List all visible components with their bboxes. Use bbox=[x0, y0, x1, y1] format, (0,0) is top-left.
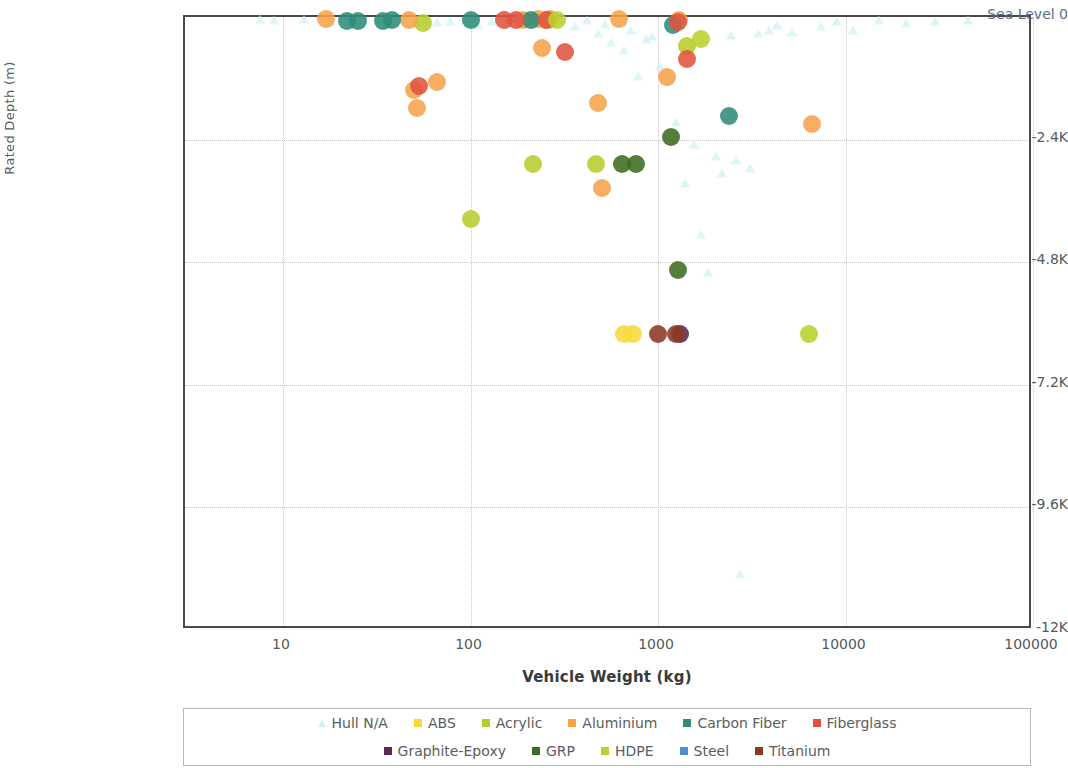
plot-area[interactable] bbox=[183, 15, 1031, 628]
data-point-aluminium bbox=[405, 81, 423, 99]
data-point-hull-n-a bbox=[255, 14, 265, 23]
data-point-hull-n-a bbox=[703, 268, 713, 277]
legend-item-steel[interactable]: Steel bbox=[680, 743, 730, 759]
legend-item-hdpe[interactable]: HDPE bbox=[601, 743, 654, 759]
legend-item-abs[interactable]: ABS bbox=[414, 715, 456, 731]
data-point-hull-n-a bbox=[735, 569, 745, 578]
legend-item-titanium[interactable]: Titanium bbox=[755, 743, 830, 759]
legend-label: Carbon Fiber bbox=[697, 715, 786, 731]
legend[interactable]: Hull N/AABSAcrylicAluminiumCarbon FiberF… bbox=[183, 708, 1031, 766]
data-point-hull-n-a bbox=[726, 30, 736, 39]
legend-label: GRP bbox=[546, 743, 575, 759]
data-point-hull-n-a bbox=[787, 28, 797, 37]
gridline-vertical bbox=[846, 17, 847, 626]
legend-label: Titanium bbox=[769, 743, 830, 759]
chart-root: Rated Depth (m) Sea Level 0-2.4K-4.8K-7.… bbox=[0, 0, 1068, 768]
data-point-hull-n-a bbox=[655, 61, 665, 70]
data-point-hull-n-a bbox=[412, 19, 422, 28]
data-point-aluminium bbox=[610, 10, 628, 28]
legend-row: Graphite-EpoxyGRPHDPESteelTitanium bbox=[184, 737, 1030, 765]
data-point-fiberglass bbox=[556, 43, 574, 61]
data-point-aluminium bbox=[514, 11, 532, 29]
legend-item-hull-n-a[interactable]: Hull N/A bbox=[318, 715, 388, 731]
data-point-fiberglass bbox=[538, 11, 556, 29]
data-point-carbon-fiber bbox=[374, 12, 392, 30]
x-tick-label: 1000 bbox=[638, 636, 674, 652]
data-point-hull-n-a bbox=[874, 16, 884, 25]
data-point-aluminium bbox=[803, 115, 821, 133]
data-point-hull-n-a bbox=[516, 16, 526, 25]
data-point-hull-n-a bbox=[633, 71, 643, 80]
data-point-hull-n-a bbox=[671, 117, 681, 126]
data-point-hull-n-a bbox=[717, 168, 727, 177]
legend-item-aluminium[interactable]: Aluminium bbox=[568, 715, 657, 731]
legend-item-fiberglass[interactable]: Fiberglass bbox=[813, 715, 897, 731]
data-point-hull-n-a bbox=[848, 25, 858, 34]
legend-item-graphite-epoxy[interactable]: Graphite-Epoxy bbox=[384, 743, 506, 759]
data-point-hull-n-a bbox=[764, 26, 774, 35]
x-tick-label: 100 bbox=[455, 636, 482, 652]
data-point-hull-n-a bbox=[680, 179, 690, 188]
data-point-hull-n-a bbox=[614, 17, 624, 26]
data-point-hull-n-a bbox=[570, 22, 580, 31]
legend-label: Hull N/A bbox=[332, 715, 388, 731]
legend-swatch-icon bbox=[482, 719, 490, 727]
data-point-hull-n-a bbox=[353, 15, 363, 24]
legend-swatch-icon bbox=[414, 719, 422, 727]
data-point-grp bbox=[669, 261, 687, 279]
data-point-carbon-fiber bbox=[720, 107, 738, 125]
data-point-hull-n-a bbox=[421, 15, 431, 24]
data-point-hull-n-a bbox=[540, 17, 550, 26]
legend-label: Acrylic bbox=[496, 715, 543, 731]
legend-swatch-icon bbox=[384, 747, 392, 755]
data-point-hdpe bbox=[692, 30, 710, 48]
data-point-hdpe bbox=[548, 11, 566, 29]
data-point-aluminium bbox=[593, 179, 611, 197]
data-point-hull-n-a bbox=[606, 37, 616, 46]
data-point-hull-n-a bbox=[600, 19, 610, 28]
data-point-hull-n-a bbox=[641, 34, 651, 43]
legend-swatch-icon bbox=[601, 747, 609, 755]
data-point-acrylic bbox=[536, 11, 554, 29]
x-axis-title: Vehicle Weight (kg) bbox=[183, 668, 1031, 686]
data-point-graphite-epoxy bbox=[671, 325, 689, 343]
x-tick-label: 10 bbox=[272, 636, 290, 652]
data-point-hull-n-a bbox=[696, 230, 706, 239]
data-point-aluminium bbox=[533, 39, 551, 57]
y-tick-label: -4.8K bbox=[893, 251, 1068, 267]
data-point-hull-n-a bbox=[445, 17, 455, 26]
data-point-hull-n-a bbox=[647, 32, 657, 41]
data-point-acrylic bbox=[587, 155, 605, 173]
legend-label: Graphite-Epoxy bbox=[398, 743, 506, 759]
legend-item-acrylic[interactable]: Acrylic bbox=[482, 715, 543, 731]
data-point-hull-n-a bbox=[555, 16, 565, 25]
data-point-fiberglass bbox=[507, 11, 525, 29]
data-point-carbon-fiber bbox=[664, 16, 682, 34]
data-point-hull-n-a bbox=[299, 15, 309, 24]
legend-swatch-icon bbox=[568, 719, 576, 727]
legend-swatch-icon bbox=[755, 747, 763, 755]
data-point-hull-n-a bbox=[816, 22, 826, 31]
legend-item-carbon-fiber[interactable]: Carbon Fiber bbox=[683, 715, 786, 731]
data-point-grp bbox=[662, 128, 680, 146]
data-point-carbon-fiber bbox=[383, 11, 401, 29]
data-point-carbon-fiber bbox=[522, 11, 540, 29]
legend-swatch-icon bbox=[683, 719, 691, 727]
data-point-aluminium bbox=[589, 94, 607, 112]
gridline-vertical bbox=[1033, 17, 1034, 626]
x-tick-label: 100000 bbox=[1004, 636, 1057, 652]
data-point-hull-n-a bbox=[802, 329, 812, 338]
data-point-acrylic bbox=[414, 14, 432, 32]
data-point-aluminium bbox=[408, 99, 426, 117]
legend-item-grp[interactable]: GRP bbox=[532, 743, 575, 759]
data-point-hull-n-a bbox=[745, 163, 755, 172]
data-point-hull-n-a bbox=[375, 16, 385, 25]
data-point-hull-n-a bbox=[772, 21, 782, 30]
data-point-hull-n-a bbox=[619, 45, 629, 54]
y-tick-label: -12K bbox=[893, 619, 1068, 635]
data-point-hull-n-a bbox=[711, 151, 721, 160]
data-point-grp bbox=[627, 155, 645, 173]
data-point-carbon-fiber bbox=[338, 12, 356, 30]
data-point-fiberglass bbox=[495, 11, 513, 29]
legend-swatch-icon bbox=[813, 719, 821, 727]
